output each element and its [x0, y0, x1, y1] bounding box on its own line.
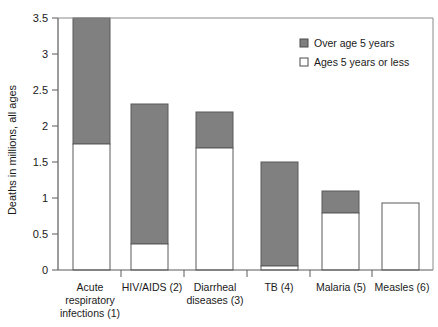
- x-label-acute-respiratory-line2: respiratory: [65, 294, 115, 306]
- x-label-diarrheal-line2: diseases (3): [186, 294, 243, 306]
- bar-measles: [382, 203, 419, 270]
- bar-segment-over-5: [261, 162, 298, 266]
- chart-legend: Over age 5 years Ages 5 years or less: [300, 37, 409, 68]
- bar-tb: [261, 162, 298, 270]
- y-axis-title: Deaths in millions, all ages: [6, 84, 18, 215]
- y-tick-label-1: 3: [42, 48, 48, 60]
- y-tick-label-5: 1: [42, 192, 48, 204]
- bar-segment-over-5: [131, 104, 168, 244]
- bar-diarrheal-diseases: [196, 112, 233, 270]
- y-axis-ticks: 3.5 3 2.5 2 1.5 1 0.5 0: [33, 12, 48, 276]
- bar-segment-ages-5-orless: [382, 203, 419, 270]
- bar-segment-over-5: [322, 191, 359, 213]
- x-label-acute-respiratory-line3: infections (1): [60, 307, 120, 319]
- legend-swatch-over-age-5: [300, 39, 308, 47]
- legend-swatch-ages-5-or-less: [300, 58, 308, 66]
- x-label-diarrheal-line1: Diarrheal: [194, 281, 237, 293]
- y-tick-label-6: 0.5: [33, 228, 48, 240]
- bar-hiv-aids: [131, 104, 168, 270]
- x-label-acute-respiratory-line1: Acute: [77, 281, 104, 293]
- bar-segment-ages-5-orless: [322, 213, 359, 270]
- x-axis-category-separators: [121, 270, 372, 277]
- y-tick-label-4: 1.5: [33, 156, 48, 168]
- x-axis-labels: Acute respiratory infections (1) HIV/AID…: [60, 281, 429, 319]
- bar-segment-ages-5-orless: [131, 244, 168, 270]
- y-tick-label-2: 2.5: [33, 84, 48, 96]
- y-tick-label-3: 2: [42, 120, 48, 132]
- y-tick-label-0: 3.5: [33, 12, 48, 24]
- bar-malaria: [322, 191, 359, 270]
- bar-segment-ages-5-orless: [73, 144, 110, 270]
- chart-container: Deaths in millions, all ages 3.5 3 2.5 2…: [0, 0, 438, 327]
- bar-segment-ages-5-orless: [196, 148, 233, 270]
- y-axis-title-group: Deaths in millions, all ages: [6, 84, 18, 215]
- x-label-hiv-aids: HIV/AIDS (2): [122, 281, 183, 293]
- x-label-measles: Measles (6): [375, 281, 430, 293]
- x-label-malaria: Malaria (5): [316, 281, 366, 293]
- bar-chart-svg: Deaths in millions, all ages 3.5 3 2.5 2…: [0, 0, 438, 327]
- x-label-tb: TB (4): [264, 281, 293, 293]
- bar-segment-over-5: [73, 18, 110, 144]
- y-axis-tick-marks: [52, 18, 58, 270]
- bar-segment-over-5: [196, 112, 233, 148]
- legend-label-over-age-5: Over age 5 years: [314, 37, 395, 49]
- y-tick-label-7: 0: [42, 264, 48, 276]
- legend-label-ages-5-or-less: Ages 5 years or less: [314, 56, 409, 68]
- bar-acute-respiratory-infections: [73, 18, 110, 270]
